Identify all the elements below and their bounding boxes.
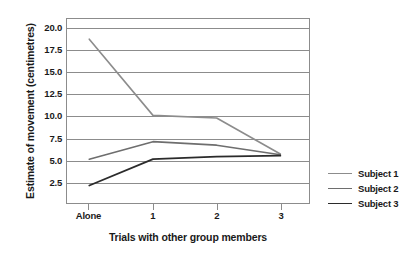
- chart-figure: Estimate of movement (centimetres) 2.55.…: [0, 0, 419, 258]
- y-axis-tick-label: 12.5: [22, 88, 62, 99]
- y-axis-tick-label: 10.0: [22, 110, 62, 121]
- x-axis-tick-label: 3: [279, 210, 284, 221]
- legend-swatch-icon: [328, 173, 352, 174]
- y-axis-tick-label: 15.0: [22, 66, 62, 77]
- legend-label: Subject 3: [358, 198, 398, 209]
- legend-item-subject-1[interactable]: Subject 1: [328, 166, 419, 181]
- x-axis-tick-labels: Alone123: [66, 210, 310, 226]
- y-axis-tick-labels: 2.55.07.510.012.515.017.520.0: [22, 18, 62, 204]
- y-axis-tick-label: 20.0: [22, 21, 62, 32]
- x-axis-tick-label: Alone: [76, 210, 101, 221]
- y-axis-tick-label: 17.5: [22, 44, 62, 55]
- y-axis-tick-label: 5.0: [22, 154, 62, 165]
- y-axis-tick-label: 2.5: [22, 176, 62, 187]
- x-axis-tick-label: 2: [214, 210, 219, 221]
- x-axis-tick-label: 1: [150, 210, 155, 221]
- series-line-subject-1: [89, 39, 280, 154]
- legend-swatch-icon: [328, 188, 352, 189]
- chart-legend: Subject 1Subject 2Subject 3: [328, 166, 419, 211]
- series-lines: [67, 19, 309, 203]
- y-axis-tick-label: 7.5: [22, 132, 62, 143]
- series-line-subject-3: [89, 156, 280, 186]
- legend-label: Subject 1: [358, 168, 398, 179]
- legend-item-subject-3[interactable]: Subject 3: [328, 196, 419, 211]
- legend-item-subject-2[interactable]: Subject 2: [328, 181, 419, 196]
- x-axis-title: Trials with other group members: [66, 231, 310, 243]
- legend-label: Subject 2: [358, 183, 398, 194]
- plot-area: [66, 18, 310, 204]
- legend-swatch-icon: [328, 203, 352, 204]
